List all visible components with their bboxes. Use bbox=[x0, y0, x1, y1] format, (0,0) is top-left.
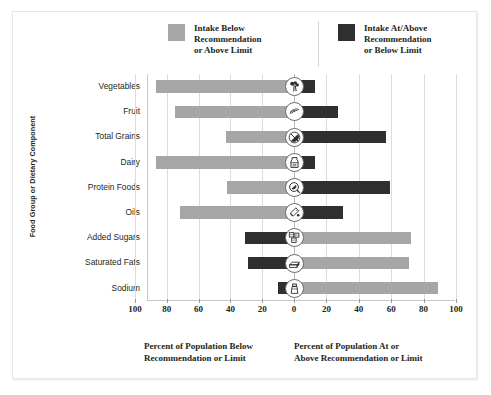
tick-mark bbox=[359, 299, 360, 303]
category-label: Dairy bbox=[43, 150, 147, 175]
bar-segment-below bbox=[227, 181, 294, 194]
bar-row bbox=[147, 250, 455, 275]
x-tick-label: 60 bbox=[184, 304, 214, 314]
bar-row bbox=[147, 175, 455, 200]
bar-row bbox=[147, 276, 455, 301]
tick-mark bbox=[424, 299, 425, 303]
bar-row bbox=[147, 200, 455, 225]
bar-segment-atabove bbox=[294, 181, 390, 194]
tick-mark bbox=[167, 299, 168, 303]
bar-row bbox=[147, 150, 455, 175]
category-label: Oils bbox=[43, 200, 147, 225]
bar-segment-below bbox=[226, 131, 294, 144]
bar-segment-below bbox=[294, 232, 411, 245]
category-label: Fruit bbox=[43, 99, 147, 124]
bar-segment-below bbox=[180, 206, 294, 219]
broccoli-icon bbox=[285, 77, 304, 96]
x-tick-label: 20 bbox=[311, 304, 341, 314]
grains-icon bbox=[285, 128, 304, 147]
protein-icon bbox=[285, 178, 304, 197]
x-tick-label: 100 bbox=[120, 304, 150, 314]
dairy-icon bbox=[285, 153, 304, 172]
category-label: Total Grains bbox=[43, 124, 147, 149]
bar-segment-below bbox=[175, 106, 294, 119]
fruit-slice-icon bbox=[285, 102, 304, 121]
bar-row bbox=[147, 99, 455, 124]
x-axis-ticks: 10080604020020406080100 bbox=[147, 303, 455, 317]
category-label: Vegetables bbox=[43, 74, 147, 99]
tick-mark bbox=[294, 299, 295, 303]
butter-icon bbox=[285, 254, 304, 273]
x-axis-titles: Percent of Population Below Recommendati… bbox=[13, 341, 478, 371]
category-label: Protein Foods bbox=[43, 175, 147, 200]
gridline bbox=[135, 74, 136, 301]
bar-segment-below bbox=[156, 80, 294, 93]
bar-row bbox=[147, 225, 455, 250]
category-labels: Vegetables Fruit Total Grains Dairy Prot… bbox=[43, 74, 147, 301]
plot-area: Food Group or Dietary Component Vegetabl… bbox=[13, 12, 478, 380]
axis-area bbox=[147, 74, 455, 301]
x-tick-label: 80 bbox=[152, 304, 182, 314]
tick-mark bbox=[326, 299, 327, 303]
x-tick-label: 0 bbox=[279, 304, 309, 314]
category-label: Added Sugars bbox=[43, 225, 147, 250]
tick-mark bbox=[391, 299, 392, 303]
bar-row bbox=[147, 124, 455, 149]
x-axis-title-right: Percent of Population At or Above Recomm… bbox=[294, 341, 423, 364]
tick-mark bbox=[199, 299, 200, 303]
tick-mark bbox=[456, 299, 457, 303]
x-tick-label: 100 bbox=[441, 304, 471, 314]
bar-segment-below bbox=[294, 282, 438, 295]
oils-icon bbox=[285, 203, 304, 222]
bar-rows bbox=[147, 74, 455, 301]
x-tick-label: 40 bbox=[215, 304, 245, 314]
bar-segment-below bbox=[294, 257, 409, 270]
bar-segment-below bbox=[156, 156, 294, 169]
gridline bbox=[456, 74, 457, 301]
bar-segment-atabove bbox=[294, 131, 386, 144]
category-label: Saturated Fats bbox=[43, 250, 147, 275]
x-tick-label: 40 bbox=[344, 304, 374, 314]
category-label: Sodium bbox=[43, 276, 147, 301]
x-tick-label: 80 bbox=[409, 304, 439, 314]
bar-row bbox=[147, 74, 455, 99]
tick-mark bbox=[135, 299, 136, 303]
x-axis-title-left: Percent of Population Below Recommendati… bbox=[144, 341, 253, 364]
salt-icon bbox=[285, 279, 304, 298]
tick-mark bbox=[262, 299, 263, 303]
x-tick-label: 20 bbox=[247, 304, 277, 314]
sugar-icon bbox=[285, 228, 304, 247]
x-tick-label: 60 bbox=[376, 304, 406, 314]
y-axis-title: Food Group or Dietary Component bbox=[28, 97, 37, 257]
chart-frame: Intake Below Recommendation or Above Lim… bbox=[12, 11, 477, 379]
tick-mark bbox=[230, 299, 231, 303]
